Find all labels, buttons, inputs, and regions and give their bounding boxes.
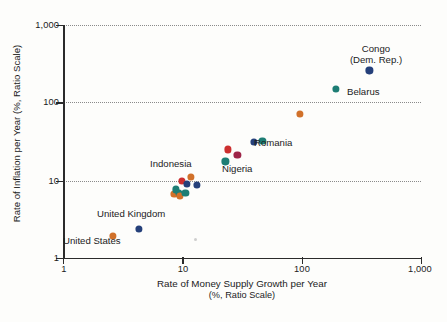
gridline-10 <box>63 181 421 182</box>
data-point <box>184 181 191 188</box>
print-artifact-dot <box>194 238 197 241</box>
x-tick-label-100: 100 <box>294 264 310 274</box>
x-tick-1000 <box>421 257 422 264</box>
annotation-united-kingdom: United Kingdom <box>97 209 165 220</box>
gridline-1000 <box>63 25 421 26</box>
x-axis-title: Rate of Money Supply Growth per Year (%,… <box>63 278 421 301</box>
scatter-chart-figure: 1,000 100 10 1 1 10 100 1,000 Rate of In… <box>0 0 447 322</box>
y-tick-label-100: 100 <box>43 97 59 107</box>
y-axis-title: Rate of Inflation per Year (%, Ratio Sca… <box>11 34 22 234</box>
x-tick-1 <box>63 257 64 264</box>
annotation-congo-line1: Congo <box>362 43 390 54</box>
annotation-united-states: United States <box>63 236 121 247</box>
annotation-congo: Congo (Dem. Rep.) <box>350 44 402 65</box>
y-tick-label-1000: 1,000 <box>35 20 59 30</box>
data-point <box>135 225 142 232</box>
x-tick-label-1: 1 <box>61 264 66 274</box>
annotation-indonesia: Indonesia <box>150 159 192 170</box>
data-point <box>182 190 189 197</box>
x-tick-label-1000: 1,000 <box>408 264 432 274</box>
y-tick-label-1: 1 <box>54 253 59 263</box>
y-tick-label-10: 10 <box>48 176 59 186</box>
data-point <box>234 152 241 159</box>
x-tick-label-10: 10 <box>178 264 189 274</box>
x-axis-title-line2: (%, Ratio Scale) <box>63 290 421 302</box>
x-tick-100 <box>302 257 303 264</box>
annotation-congo-line2: (Dem. Rep.) <box>350 54 402 65</box>
annotation-nigeria: Nigeria <box>222 164 252 175</box>
annotation-belarus: Belarus <box>347 87 380 98</box>
x-axis-line <box>63 258 422 260</box>
data-point <box>193 182 200 189</box>
data-point <box>296 110 303 117</box>
gridline-100 <box>63 102 421 103</box>
y-axis-line <box>63 25 65 259</box>
data-point <box>187 173 194 180</box>
x-tick-10 <box>182 257 183 264</box>
x-axis-title-line1: Rate of Money Supply Growth per Year <box>157 278 327 289</box>
data-point <box>366 67 373 74</box>
data-point <box>224 146 231 153</box>
annotation-romania: Romania <box>254 138 292 149</box>
data-point <box>333 85 340 92</box>
